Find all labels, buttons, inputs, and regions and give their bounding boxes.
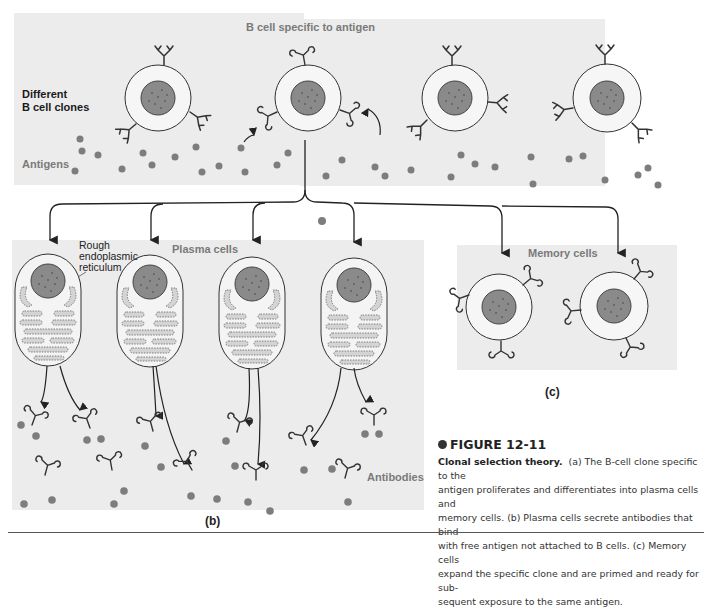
figure-number: FIGURE 12-11: [438, 437, 706, 452]
b-cell-clone-1: [116, 46, 211, 143]
panel-c-tag: (c): [545, 385, 560, 399]
bullet-icon: [438, 440, 447, 449]
caption-line-2: antigen proliferates and differentiates …: [438, 484, 698, 509]
caption-line-5: expand the specific clone and are primed…: [438, 568, 699, 593]
panel-b-tag: (b): [205, 514, 220, 528]
plasma-cells-label: Plasma cells: [172, 243, 238, 255]
antigens-panel-b: [17, 421, 383, 515]
antigens-label: Antigens: [22, 158, 69, 170]
plasma-cell-3: [219, 257, 285, 369]
figure-caption: FIGURE 12-11 Clonal selection theory. (a…: [438, 437, 706, 609]
caption-line-3: memory cells. (b) Plasma cells secrete a…: [438, 512, 693, 537]
plasma-cell-2: [117, 255, 183, 367]
b-cell-clones-label-line2: B cell clones: [22, 101, 89, 114]
b-cell-specific-label: B cell specific to antigen: [246, 21, 375, 33]
memory-cells-label: Memory cells: [528, 247, 598, 259]
memory-cell-1: [449, 264, 544, 358]
caption-title: Clonal selection theory.: [438, 456, 563, 467]
b-cell-clone-4: [553, 45, 652, 143]
figure-number-text: FIGURE 12-11: [450, 437, 546, 452]
bottom-rule: [8, 532, 704, 533]
b-cell-specific: [257, 46, 361, 225]
antigens-panel-a: [72, 136, 662, 189]
plasma-cell-4: [321, 258, 387, 370]
b-cell-clone-3: [407, 46, 508, 140]
rer-label-line3: reticulum: [79, 262, 122, 274]
caption-line-4: with free antigen not attached to B cell…: [438, 540, 686, 565]
memory-cell-2: [563, 258, 654, 359]
plasma-cell-1: [15, 254, 81, 366]
b-cell-clones-label-line1: Different: [22, 88, 67, 101]
antibodies-label: Antibodies: [367, 471, 424, 483]
caption-line-6: sequent exposure to the same antigen.: [438, 596, 623, 607]
